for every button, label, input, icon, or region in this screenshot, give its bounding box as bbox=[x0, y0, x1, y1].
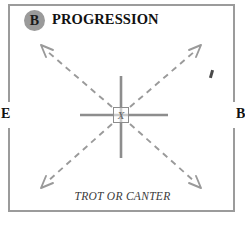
center-marker-label: X bbox=[114, 108, 128, 122]
arena-marker-b: B bbox=[236, 107, 245, 121]
page-title: PROGRESSION bbox=[52, 11, 159, 28]
dressage-arena-figure: B PROGRESSION X E B bbox=[0, 0, 245, 226]
gait-caption: TROT OR CANTER bbox=[0, 190, 245, 202]
center-marker-square: X bbox=[113, 107, 129, 123]
arena-marker-e: E bbox=[1, 107, 10, 121]
section-badge: B bbox=[24, 10, 45, 31]
